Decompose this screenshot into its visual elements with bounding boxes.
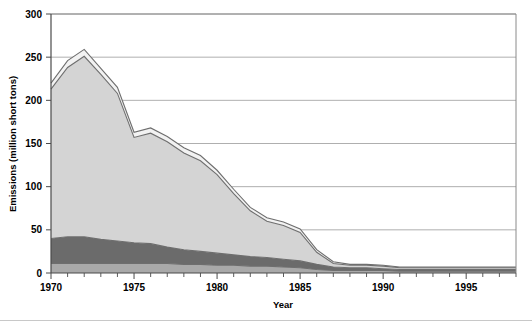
y-tick-label-0: 0 [36, 268, 42, 279]
x-axis-title: Year [273, 299, 293, 310]
y-tick-label-300: 300 [25, 9, 42, 20]
y-tick-label-50: 50 [31, 224, 43, 235]
x-tick-label-1975: 1975 [123, 282, 146, 293]
x-tick-label-1980: 1980 [206, 282, 229, 293]
x-tick-label-1970: 1970 [40, 282, 63, 293]
emissions-stacked-area-chart: 050100150200250300 197019751980198519901… [0, 0, 532, 322]
x-tick-label-1995: 1995 [455, 282, 478, 293]
y-tick-label-150: 150 [25, 138, 42, 149]
chart-figure: 050100150200250300 197019751980198519901… [0, 0, 532, 322]
x-tick-label-1985: 1985 [289, 282, 312, 293]
x-tick-label-1990: 1990 [372, 282, 395, 293]
y-tick-label-200: 200 [25, 95, 42, 106]
y-tick-label-250: 250 [25, 52, 42, 63]
y-axis-title: Emissions (million short tons) [7, 76, 18, 212]
y-tick-label-100: 100 [25, 181, 42, 192]
